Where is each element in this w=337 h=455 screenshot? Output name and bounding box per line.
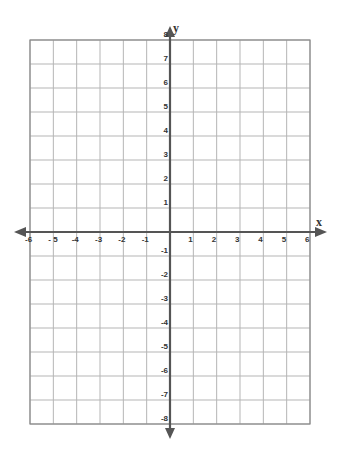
y-tick-label: -6 <box>161 367 168 375</box>
y-tick-label: 4 <box>164 127 168 135</box>
y-axis-label: y <box>173 22 179 34</box>
x-tick-label: -2 <box>118 236 125 244</box>
y-tick-label: -7 <box>161 391 168 399</box>
x-tick-label: 3 <box>235 236 239 244</box>
x-tick-label: 2 <box>212 236 216 244</box>
x-tick-label: -6 <box>25 236 32 244</box>
y-tick-label: 2 <box>164 175 168 183</box>
x-tick-label: 5 <box>282 236 286 244</box>
x-tick-label: -4 <box>72 236 79 244</box>
coordinate-plane <box>0 0 337 455</box>
y-tick-label: 3 <box>164 151 168 159</box>
x-tick-label: 1 <box>188 236 192 244</box>
y-tick-label: -3 <box>161 295 168 303</box>
x-tick-label: -1 <box>142 236 149 244</box>
y-tick-label: -5 <box>161 343 168 351</box>
x-tick-label: 6 <box>305 236 309 244</box>
x-tick-label: 4 <box>258 236 262 244</box>
y-tick-label: -4 <box>161 319 168 327</box>
y-tick-label: -8 <box>161 415 168 423</box>
x-tick-label: - 5 <box>48 236 57 244</box>
y-tick-label: 7 <box>164 55 168 63</box>
y-tick-label: 1 <box>164 199 168 207</box>
y-tick-label: 5 <box>164 103 168 111</box>
y-tick-label: 6 <box>164 79 168 87</box>
y-tick-label: -2 <box>161 271 168 279</box>
x-axis-label: x <box>316 216 322 228</box>
y-tick-label: -1 <box>161 247 168 255</box>
y-tick-label: 8 <box>164 31 168 39</box>
x-tick-label: -3 <box>95 236 102 244</box>
